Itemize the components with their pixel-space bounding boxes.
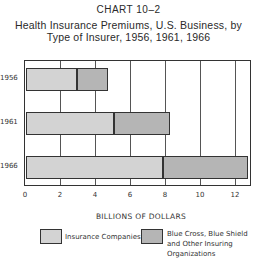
legend-label-line-2: and Other Insuring bbox=[167, 239, 248, 249]
legend-swatch-insurance-companies bbox=[40, 229, 62, 244]
legend-label-insurance-companies: Insurance Companies bbox=[65, 232, 141, 242]
bar-segment-1961-blue-cross bbox=[114, 112, 170, 135]
legend-swatch-blue-cross bbox=[141, 229, 163, 244]
x-tick-label: 6 bbox=[122, 191, 138, 199]
title-line-2: Type of Insurer, 1956, 1961, 1966 bbox=[0, 31, 257, 43]
legend-label-line-3: Organizations bbox=[167, 249, 248, 259]
plot-area bbox=[24, 60, 251, 186]
y-tick-label-1961: 1961 bbox=[0, 118, 22, 126]
x-tick-label: 2 bbox=[52, 191, 68, 199]
x-axis-label: BILLIONS OF DOLLARS bbox=[0, 212, 257, 221]
bar-segment-1961-insurance-companies bbox=[26, 112, 114, 135]
bar-segment-1966-blue-cross bbox=[163, 156, 249, 179]
y-tick-label-1956: 1956 bbox=[0, 74, 22, 82]
y-tick-label-1966: 1966 bbox=[0, 162, 22, 170]
legend-label-blue-cross: Blue Cross, Blue Shield and Other Insuri… bbox=[167, 229, 248, 259]
x-tick-label: 8 bbox=[157, 191, 173, 199]
x-tick-label: 10 bbox=[192, 191, 208, 199]
x-tick-label: 4 bbox=[87, 191, 103, 199]
x-tick-label: 0 bbox=[17, 191, 33, 199]
bar-segment-1956-insurance-companies bbox=[26, 68, 77, 91]
chart-number: CHART 10–2 bbox=[0, 4, 257, 15]
bar-segment-1966-insurance-companies bbox=[26, 156, 163, 179]
legend-label-line-1: Blue Cross, Blue Shield bbox=[167, 229, 248, 239]
chart-title: Health Insurance Premiums, U.S. Business… bbox=[0, 19, 257, 43]
title-line-1: Health Insurance Premiums, U.S. Business… bbox=[0, 19, 257, 31]
x-tick-label: 12 bbox=[227, 191, 243, 199]
bar-segment-1956-blue-cross bbox=[77, 68, 109, 91]
